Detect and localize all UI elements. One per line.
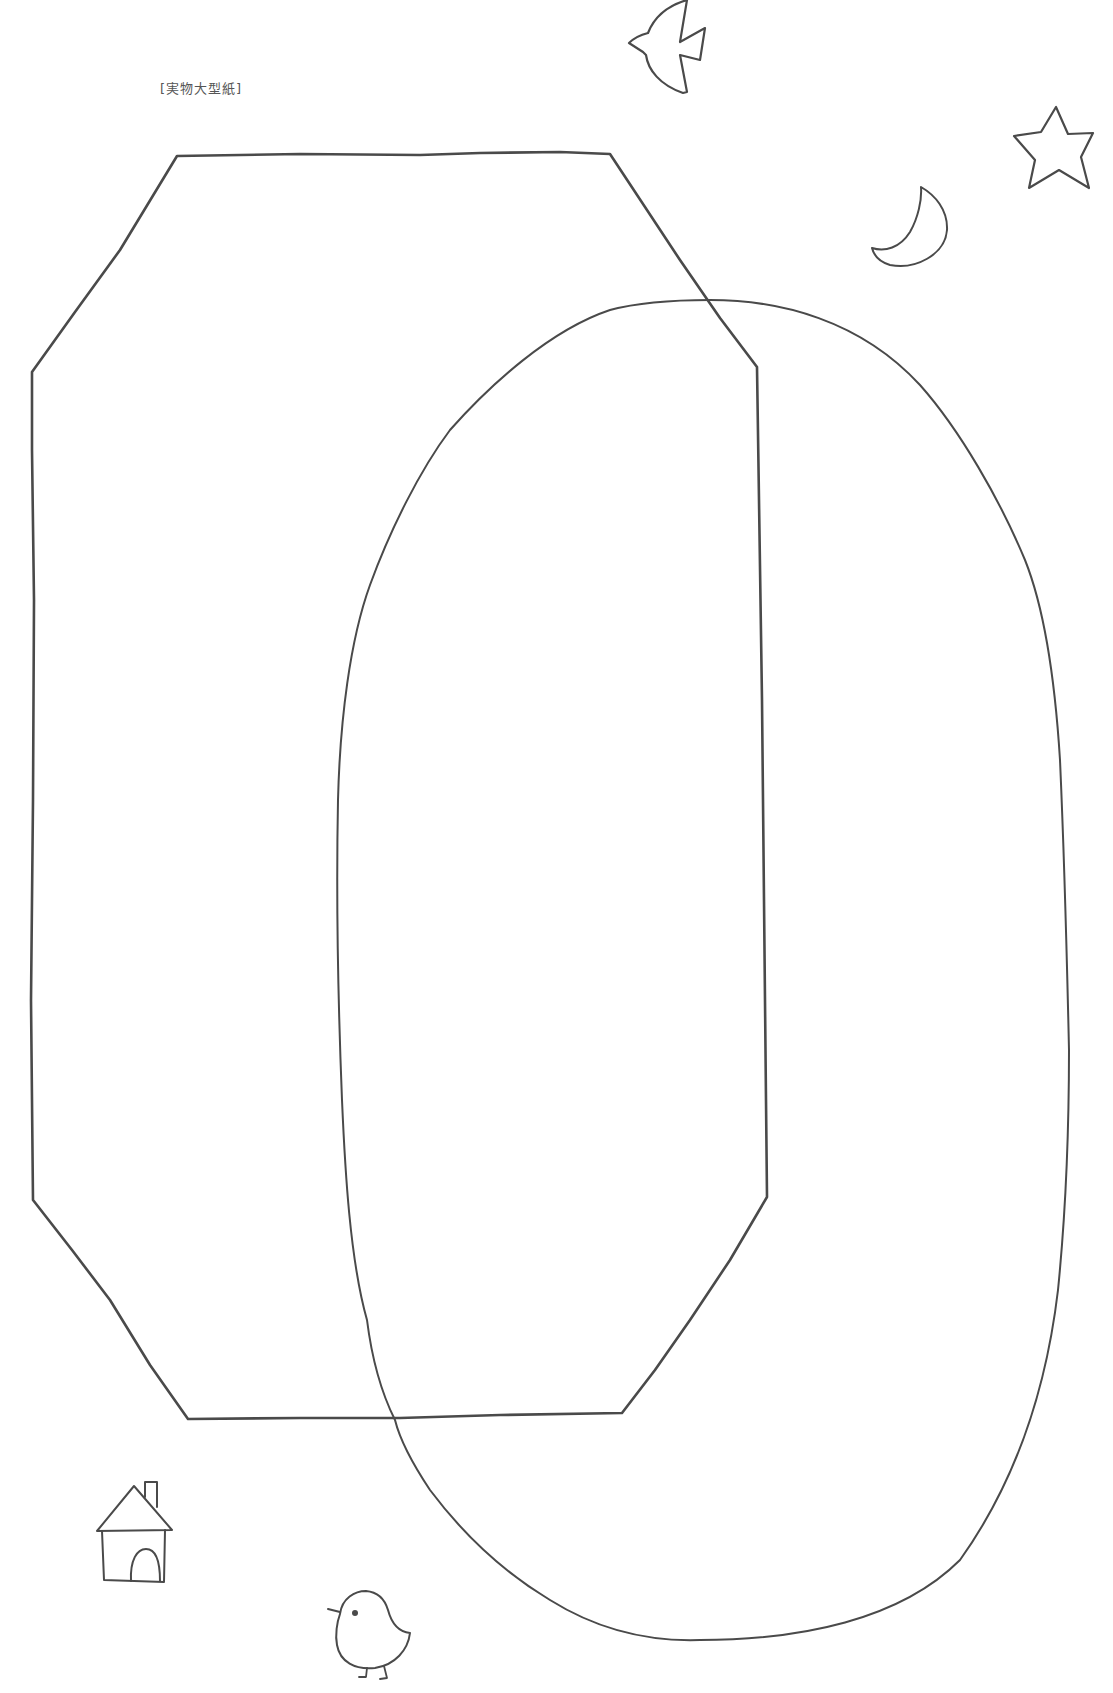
star-icon: [1014, 107, 1093, 188]
octagon-pattern-piece: [31, 152, 767, 1419]
pattern-drawing: [0, 0, 1113, 1693]
moon-icon: [872, 187, 947, 266]
chick-icon: [328, 1591, 410, 1679]
pattern-page: [実物大型紙]: [0, 0, 1113, 1693]
house-icon: [97, 1482, 172, 1582]
bird-icon: [629, 0, 705, 93]
oval-pattern-piece: [337, 300, 1069, 1640]
